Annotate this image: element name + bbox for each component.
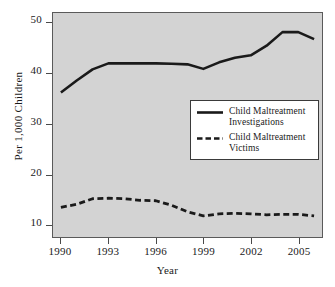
x-axis-title: Year <box>0 264 335 276</box>
x-tick-mark <box>299 238 300 244</box>
x-tick-label: 1993 <box>91 246 125 257</box>
x-tick-label: 1999 <box>186 246 220 257</box>
legend-entry-investigations: Child Maltreatment Investigations <box>196 106 314 128</box>
x-tick-mark <box>203 238 204 244</box>
legend-label-victims: Child Maltreatment Victims <box>229 132 305 154</box>
series-line <box>61 32 314 92</box>
x-tick-mark <box>251 238 252 244</box>
y-tick-label: 40 <box>31 65 42 76</box>
x-tick-mark <box>108 238 109 244</box>
series-line <box>61 198 314 216</box>
legend-entry-victims: Child Maltreatment Victims <box>196 132 314 154</box>
y-tick-label: 10 <box>31 217 42 228</box>
y-tick-label: 20 <box>31 167 42 178</box>
x-tick-label: 2005 <box>282 246 316 257</box>
chart-legend: Child Maltreatment Investigations Child … <box>190 100 319 160</box>
legend-line-solid-icon <box>196 106 224 119</box>
y-tick-label: 30 <box>31 116 42 127</box>
x-tick-label: 1996 <box>139 246 173 257</box>
legend-label-investigations: Child Maltreatment Investigations <box>229 106 305 128</box>
x-tick-mark <box>60 238 61 244</box>
chart-figure: 1020304050 Per 1,000 Children Child Malt… <box>0 0 335 287</box>
y-tick-label: 50 <box>31 14 42 25</box>
x-tick-label: 2002 <box>234 246 268 257</box>
x-axis: 199019931996199920022005 Year <box>0 238 335 287</box>
x-tick-label: 1990 <box>43 246 77 257</box>
y-axis-title: Per 1,000 Children <box>12 36 24 196</box>
x-tick-mark <box>156 238 157 244</box>
legend-line-dashed-icon <box>196 132 224 145</box>
